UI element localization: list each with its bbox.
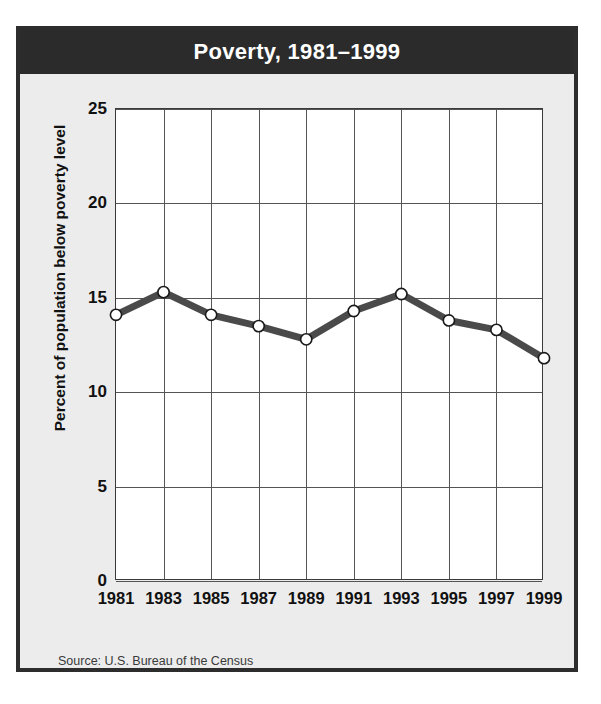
data-point-marker: [348, 305, 359, 316]
plot-inner: 0510152025198119831985198719891991199319…: [116, 109, 542, 579]
y-axis-tick-label: 0: [98, 571, 107, 591]
plot-area: 0510152025198119831985198719891991199319…: [115, 108, 543, 580]
data-point-marker: [301, 334, 312, 345]
x-axis-tick-label: 1989: [288, 589, 325, 608]
data-point-marker: [158, 287, 169, 298]
x-axis-tick-label: 1983: [145, 589, 182, 608]
data-point-marker: [491, 324, 502, 335]
x-axis-tick-label: 1987: [240, 589, 277, 608]
x-axis-tick-label: 1999: [526, 589, 563, 608]
x-axis-tick-label: 1993: [383, 589, 420, 608]
y-axis-tick-label: 20: [88, 193, 107, 213]
chart-figure: Poverty, 1981–1999 Percent of population…: [16, 26, 578, 672]
x-axis-tick-label: 1981: [98, 589, 135, 608]
x-axis-tick-label: 1997: [478, 589, 515, 608]
series-line: [116, 292, 544, 358]
data-point-marker: [253, 321, 264, 332]
data-point-marker: [110, 309, 121, 320]
y-axis-label: Percent of population below poverty leve…: [51, 88, 69, 468]
data-point-marker: [443, 315, 454, 326]
data-point-marker: [396, 288, 407, 299]
data-point-marker: [206, 309, 217, 320]
data-series: [116, 109, 544, 581]
gridline-horizontal: [116, 581, 542, 582]
y-axis-tick-label: 5: [98, 477, 107, 497]
chart-body: Percent of population below poverty leve…: [20, 74, 574, 668]
chart-title-bar: Poverty, 1981–1999: [20, 30, 574, 74]
page-title: Poverty, 1981–1999: [194, 39, 401, 65]
x-axis-tick-label: 1995: [431, 589, 468, 608]
y-axis-tick-label: 10: [88, 382, 107, 402]
x-axis-tick-label: 1991: [335, 589, 372, 608]
y-axis-tick-label: 15: [88, 288, 107, 308]
data-point-marker: [538, 353, 549, 364]
x-axis-tick-label: 1985: [193, 589, 230, 608]
y-axis-tick-label: 25: [88, 99, 107, 119]
source-note: Source: U.S. Bureau of the Census: [58, 654, 253, 668]
